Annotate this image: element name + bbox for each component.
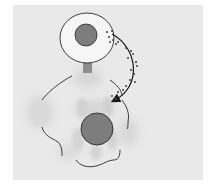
figure-canvas xyxy=(0,0,208,190)
top-nucleus xyxy=(75,24,97,46)
bottom-nucleus xyxy=(81,113,113,145)
connector-stalk xyxy=(83,62,92,73)
bottom-cell-shading xyxy=(26,68,138,160)
cell-diagram xyxy=(0,0,208,190)
